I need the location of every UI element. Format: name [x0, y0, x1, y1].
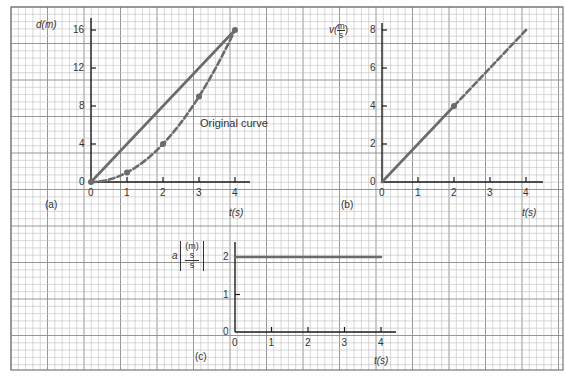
- panel-a-x-tick: 2: [160, 188, 166, 198]
- panel-a-y-tick: 0: [79, 177, 85, 187]
- panel-c-y-tick: 0: [223, 327, 229, 337]
- panel-b-y-tick: 8: [370, 25, 376, 35]
- panel-c-y-prefix: a: [172, 250, 178, 261]
- panel-c-tag: (c): [195, 352, 207, 362]
- original-curve-annotation: Original curve: [200, 118, 268, 129]
- panel-b-y-num: m: [337, 22, 345, 30]
- panel-a-x-tick: 3: [196, 188, 202, 198]
- panel-b-y-prefix: v(: [329, 24, 337, 35]
- panel-b-y-label: v(ms): [329, 22, 348, 39]
- panel-a-y-tick: 4: [79, 139, 85, 149]
- panel-b-tag: (b): [341, 200, 353, 210]
- panel-a-tag: (a): [45, 200, 57, 210]
- panel-b-y-tick: 0: [370, 177, 376, 187]
- graph-paper-figure: d(m) (a) t(s) Original curve v(ms) (b) t…: [0, 0, 566, 378]
- panel-b-x-tick: 3: [487, 188, 493, 198]
- panel-c-x-label: t(s): [374, 356, 388, 366]
- panel-a-y-tick: 16: [73, 25, 84, 35]
- panel-b-x-label: t(s): [522, 208, 536, 218]
- panel-c-x-tick: 4: [378, 338, 384, 348]
- panel-c-x-tick: 1: [269, 338, 275, 348]
- panel-c-x-tick: 3: [342, 338, 348, 348]
- panel-a-x-tick: 0: [88, 188, 94, 198]
- panel-b-y-tick: 4: [370, 101, 376, 111]
- panel-b-x-tick: 1: [415, 188, 421, 198]
- panel-a-series: [91, 30, 235, 182]
- panel-a-y-label: d(m): [36, 20, 57, 30]
- panel-b-series: [454, 30, 526, 106]
- panel-c-y-tick: 2: [223, 252, 229, 262]
- panel-b-y-tick: 2: [370, 139, 376, 149]
- panel-b-x-tick: 4: [523, 188, 529, 198]
- panel-a-y-tick: 12: [73, 63, 84, 73]
- panel-b-y-tick: 6: [370, 63, 376, 73]
- panel-a-x-tick: 4: [232, 188, 238, 198]
- panel-a-x-tick: 1: [124, 188, 130, 198]
- plots-layer: [0, 0, 566, 378]
- panel-b-series: [382, 106, 454, 182]
- panel-c-x-tick: 2: [305, 338, 311, 348]
- panel-c-y-mid: s: [185, 251, 199, 260]
- panel-b-y-den: s: [337, 30, 345, 39]
- panel-a-x-label: t(s): [229, 208, 243, 218]
- panel-c-y-tick: 1: [223, 290, 229, 300]
- panel-a-y-tick: 8: [79, 101, 85, 111]
- panel-a-y-label-text: d(m): [36, 19, 57, 30]
- panel-c-x-tick: 0: [232, 338, 238, 348]
- panel-b-x-tick: 0: [379, 188, 385, 198]
- panel-b-x-tick: 2: [451, 188, 457, 198]
- panel-c-y-label: a (m) s s: [172, 241, 204, 271]
- panel-c-y-den: s: [185, 260, 199, 270]
- panel-b-y-suffix: ): [345, 24, 348, 35]
